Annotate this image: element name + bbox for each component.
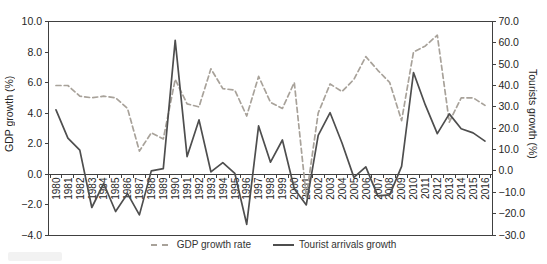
- legend-item-tourist: Tourist arrivals growth: [273, 239, 396, 250]
- x-axis-year-label: 1999: [277, 177, 288, 200]
- x-axis-year-label: 1994: [218, 177, 229, 200]
- x-axis-year-label: 1981: [63, 177, 74, 200]
- y-axis-left-tick-label: 2.0: [27, 137, 42, 149]
- x-axis-year-label: 2012: [432, 177, 443, 200]
- x-axis-year-label: 2004: [337, 177, 348, 200]
- x-axis-year-label: 1997: [253, 177, 264, 200]
- y-axis-left-tick-label: 10.0: [22, 15, 43, 27]
- x-axis-year-label: 1984: [98, 177, 109, 200]
- x-axis-year-label: 1985: [110, 177, 121, 200]
- y-axis-right-tick-label: 60.0: [499, 36, 520, 48]
- y-axis-right-tick-label: 20.0: [499, 122, 520, 134]
- gdp-dashed-line-swatch: [151, 244, 172, 246]
- x-axis-year-label: 1988: [146, 177, 157, 200]
- chart-figure: 10.08.06.04.02.00.0−2.0−4.070.060.050.04…: [0, 0, 547, 264]
- x-axis-year-label: 2010: [408, 177, 419, 200]
- y-axis-left-tick-label: 4.0: [27, 107, 42, 119]
- x-axis-year-label: 2013: [444, 177, 455, 200]
- cropped-caption-box: [8, 252, 62, 261]
- x-axis-year-label: 2015: [468, 177, 479, 200]
- x-axis-year-label: 1992: [194, 177, 205, 200]
- x-axis-year-label: 2002: [313, 177, 324, 200]
- right-axis-title: Tourists growth (%): [527, 28, 539, 200]
- x-axis-year-label: 1986: [122, 177, 133, 200]
- x-axis-year-label: 2006: [361, 177, 372, 200]
- x-axis-year-label: 2016: [480, 177, 491, 200]
- x-axis-year-label: 1980: [51, 177, 62, 200]
- y-axis-right-tick-label: 40.0: [499, 79, 520, 91]
- x-axis-year-label: 2003: [325, 177, 336, 200]
- x-axis-year-label: 1982: [75, 177, 86, 200]
- x-axis-year-label: 2008: [384, 177, 395, 200]
- x-axis-year-label: 2009: [396, 177, 407, 200]
- y-axis-left-tick-label: 6.0: [27, 76, 42, 88]
- x-axis-year-label: 2014: [456, 177, 467, 200]
- y-axis-left-tick-label: −2.0: [21, 198, 42, 210]
- y-axis-right-tick-label: 0.0: [499, 164, 514, 176]
- y-axis-right-tick-label: −20.0: [499, 207, 526, 219]
- x-axis-year-label: 1989: [158, 177, 169, 200]
- y-axis-right-tick-label: 50.0: [499, 58, 520, 70]
- tourist-solid-line-swatch: [273, 244, 294, 246]
- x-axis-year-label: 1998: [265, 177, 276, 200]
- y-axis-right-tick-label: 10.0: [499, 143, 520, 155]
- y-axis-left-tick-label: 8.0: [27, 46, 42, 58]
- legend-label-gdp: GDP growth rate: [177, 239, 251, 250]
- y-axis-right-tick-label: −10.0: [499, 186, 526, 198]
- chart-legend: GDP growth rate Tourist arrivals growth: [0, 239, 547, 250]
- y-axis-right-tick-label: 70.0: [499, 15, 520, 27]
- legend-label-tourist: Tourist arrivals growth: [299, 239, 396, 250]
- x-axis-year-label: 1993: [206, 177, 217, 200]
- x-axis-year-label: 2011: [420, 177, 431, 199]
- x-axis-year-label: 1991: [182, 177, 193, 200]
- gdp-growth-rate-line: [56, 35, 485, 197]
- plot-border: [48, 22, 493, 236]
- line-chart-canvas: 10.08.06.04.02.00.0−2.0−4.070.060.050.04…: [0, 0, 547, 264]
- left-axis-title: GDP growth (%): [3, 28, 15, 200]
- x-axis-year-label: 2005: [349, 177, 360, 200]
- x-axis-year-label: 1990: [170, 177, 181, 200]
- y-axis-right-tick-label: 30.0: [499, 100, 520, 112]
- y-axis-left-tick-label: 0.0: [27, 168, 42, 180]
- legend-item-gdp: GDP growth rate: [151, 239, 251, 250]
